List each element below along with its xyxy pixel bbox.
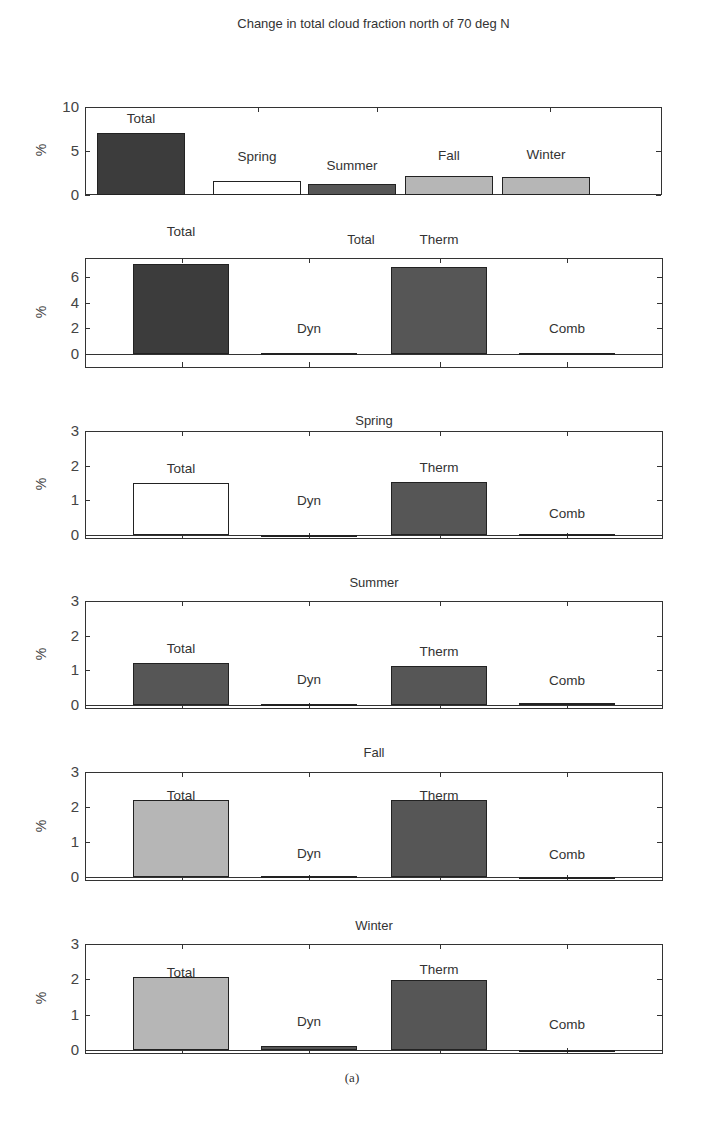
y-tick-label: 2 bbox=[49, 798, 79, 815]
y-tick-label: 0 bbox=[49, 345, 79, 362]
x-tick-mark bbox=[182, 772, 183, 777]
bar-label: Dyn bbox=[297, 321, 321, 336]
y-tick-label: 0 bbox=[49, 1041, 79, 1058]
bar-label: Total bbox=[167, 788, 196, 803]
y-tick-label: 1 bbox=[49, 1006, 79, 1023]
y-tick-label: 4 bbox=[49, 294, 79, 311]
y-tick-mark-right bbox=[657, 500, 662, 501]
y-tick-mark-right bbox=[657, 636, 662, 637]
bar-therm bbox=[391, 800, 487, 877]
x-tick-mark bbox=[258, 107, 259, 112]
y-tick-mark bbox=[85, 944, 90, 945]
y-tick-mark bbox=[85, 431, 90, 432]
y-axis-label: % bbox=[33, 648, 49, 660]
x-tick-mark bbox=[567, 258, 568, 263]
figure-caption: (a) bbox=[345, 1070, 359, 1086]
bar-label: Dyn bbox=[297, 493, 321, 508]
y-tick-label: 2 bbox=[49, 970, 79, 987]
x-tick-mark bbox=[182, 258, 183, 263]
y-tick-mark bbox=[85, 277, 90, 278]
x-tick-mark bbox=[567, 362, 568, 367]
x-tick-mark bbox=[440, 431, 441, 436]
y-tick-label: 2 bbox=[49, 457, 79, 474]
y-tick-mark-right bbox=[657, 807, 662, 808]
panel-title: Summer bbox=[349, 575, 398, 590]
bar-dyn bbox=[261, 876, 357, 878]
x-tick-mark bbox=[182, 431, 183, 436]
bar-label: Therm bbox=[419, 788, 458, 803]
bar-fall bbox=[405, 176, 493, 195]
y-tick-mark bbox=[85, 1015, 90, 1016]
x-tick-mark bbox=[309, 944, 310, 949]
bar-label: Dyn bbox=[297, 846, 321, 861]
x-tick-mark bbox=[182, 944, 183, 949]
bar-total bbox=[133, 800, 229, 877]
bar-comb bbox=[519, 877, 615, 879]
bar-label: Dyn bbox=[297, 1014, 321, 1029]
bar-summer bbox=[308, 184, 396, 195]
x-tick-mark bbox=[309, 431, 310, 436]
bar-total bbox=[133, 663, 229, 705]
bar-label: Total bbox=[167, 461, 196, 476]
y-tick-mark-right bbox=[656, 107, 661, 108]
bar-comb bbox=[519, 353, 615, 355]
y-tick-mark bbox=[85, 979, 90, 980]
y-axis-label: % bbox=[33, 478, 49, 490]
bar-dyn bbox=[261, 353, 357, 355]
y-tick-label: 3 bbox=[49, 422, 79, 439]
y-tick-mark bbox=[85, 195, 90, 196]
x-tick-mark bbox=[182, 601, 183, 606]
x-tick-mark bbox=[377, 107, 378, 112]
panel-title: Change in total cloud fraction north of … bbox=[237, 16, 509, 31]
y-tick-mark bbox=[85, 601, 90, 602]
bar-label: Comb bbox=[549, 506, 585, 521]
x-tick-mark bbox=[440, 362, 441, 367]
x-tick-mark bbox=[567, 772, 568, 777]
bar-label: Therm bbox=[419, 644, 458, 659]
y-tick-mark bbox=[85, 636, 90, 637]
x-tick-mark bbox=[309, 772, 310, 777]
x-tick-mark bbox=[567, 944, 568, 949]
x-tick-mark bbox=[440, 601, 441, 606]
y-tick-mark-right bbox=[656, 151, 661, 152]
y-tick-label: 0 bbox=[49, 526, 79, 543]
y-tick-label: 0 bbox=[49, 696, 79, 713]
bar-comb bbox=[519, 1050, 615, 1052]
x-tick-mark bbox=[182, 362, 183, 367]
bar-label: Therm bbox=[419, 962, 458, 977]
y-tick-label: 0 bbox=[49, 868, 79, 885]
y-axis-label: % bbox=[33, 306, 49, 318]
bar-spring bbox=[213, 181, 301, 195]
x-tick-mark bbox=[567, 601, 568, 606]
x-tick-mark bbox=[440, 944, 441, 949]
x-tick-mark bbox=[309, 258, 310, 263]
y-tick-mark bbox=[85, 807, 90, 808]
y-tick-mark-right bbox=[657, 979, 662, 980]
bar-total bbox=[133, 264, 229, 354]
bar-comb bbox=[519, 534, 615, 536]
x-tick-mark bbox=[440, 772, 441, 777]
bar-therm bbox=[391, 267, 487, 354]
bar-label: Spring bbox=[237, 149, 276, 164]
bar-dyn bbox=[261, 1046, 357, 1050]
y-axis-label: % bbox=[33, 992, 49, 1004]
y-tick-mark bbox=[85, 303, 90, 304]
y-tick-mark-right bbox=[657, 842, 662, 843]
y-tick-label: 10 bbox=[49, 98, 79, 115]
bar-label: Fall bbox=[438, 148, 460, 163]
panel-title: Total bbox=[347, 232, 374, 247]
bar-total bbox=[97, 133, 185, 195]
y-tick-label: 3 bbox=[49, 763, 79, 780]
y-tick-mark-right bbox=[657, 1015, 662, 1016]
y-tick-mark bbox=[85, 151, 90, 152]
y-tick-label: 5 bbox=[49, 142, 79, 159]
bar-therm bbox=[391, 666, 487, 705]
y-tick-mark-right bbox=[657, 466, 662, 467]
y-tick-mark bbox=[85, 107, 90, 108]
panel-title: Fall bbox=[364, 745, 385, 760]
y-tick-label: 1 bbox=[49, 661, 79, 678]
bar-label: Therm bbox=[419, 232, 458, 247]
bar-comb bbox=[519, 703, 615, 705]
y-tick-mark-right bbox=[657, 277, 662, 278]
y-tick-mark-right bbox=[657, 944, 662, 945]
